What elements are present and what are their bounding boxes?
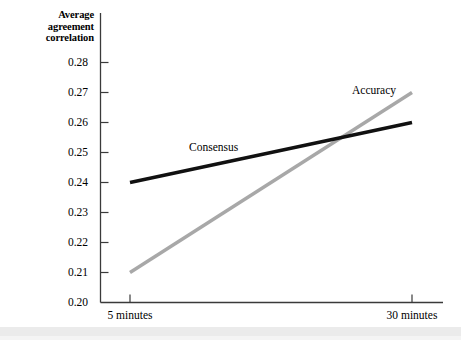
y-axis-tick-label: 0.21 (42, 267, 88, 279)
y-axis-title-line-3: correlation (8, 32, 94, 44)
series-line-accuracy (130, 93, 412, 273)
series-label-consensus: Consensus (189, 141, 238, 153)
data-series (130, 93, 412, 273)
series-line-consensus (130, 123, 412, 183)
page-bottom-band-secondary (0, 336, 461, 340)
y-axis-title: Average agreement correlation (8, 9, 94, 44)
series-label-accuracy: Accuracy (352, 84, 396, 96)
y-axis-tick-label: 0.22 (42, 237, 88, 249)
y-axis-tick-label: 0.28 (42, 57, 88, 69)
x-axis-tick-label: 5 minutes (107, 309, 152, 321)
y-axis-title-line-2: agreement (8, 21, 94, 33)
chart-figure: Average agreement correlation 0.200.210.… (0, 0, 461, 340)
y-axis-tick-label: 0.25 (42, 147, 88, 159)
y-axis-tick-label: 0.24 (42, 177, 88, 189)
x-axis-tick-label: 30 minutes (387, 309, 438, 321)
plot-area (0, 0, 461, 340)
y-axis-tick-label: 0.27 (42, 87, 88, 99)
y-axis-tick-label: 0.23 (42, 207, 88, 219)
page-bottom-band (0, 327, 461, 336)
y-axis-title-line-1: Average (8, 9, 94, 21)
y-axis-tick-label: 0.20 (42, 297, 88, 309)
axis-ticks (101, 63, 413, 303)
y-axis-tick-label: 0.26 (42, 117, 88, 129)
